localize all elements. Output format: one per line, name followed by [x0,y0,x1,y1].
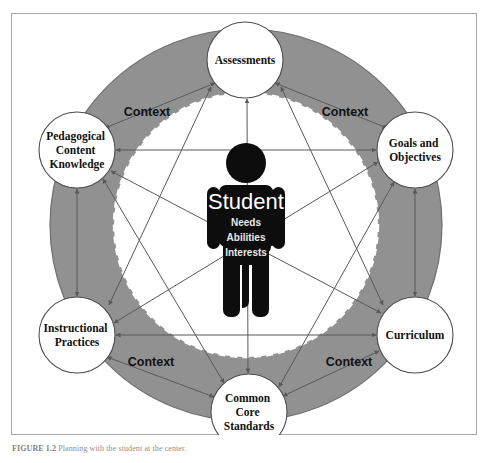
planning-model-diagram: Context Context Context Context Student … [11,13,477,435]
figure-caption-label: FIGURE 1.2 [12,444,56,453]
node-instructional-practices[interactable]: Instructional Practices [39,297,115,373]
figure-caption-text: Planning with the student at the center. [58,444,186,453]
student-head [226,143,266,183]
node-label-pck-line1: Pedagogical [46,130,105,143]
context-label-bottom-right: Context [326,355,373,369]
figure-caption: FIGURE 1.2 Planning with the student at … [12,444,472,453]
svg-text:Goals and Objectives: Goals and Objectives [389,137,442,164]
student-attribute-abilities: Abilities [227,232,266,243]
node-label-assessments: Assessments [215,54,276,66]
node-label-ccss-line3: Standards [224,420,275,432]
context-label-bottom-left: Context [128,355,175,369]
context-label-top-left: Context [124,105,171,119]
node-label-instructional-line1: Instructional [44,322,108,334]
node-assessments[interactable]: Assessments [207,22,283,98]
node-curriculum[interactable]: Curriculum [377,297,453,373]
node-label-instructional-line2: Practices [55,336,100,348]
node-label-goals-line1: Goals and [389,137,439,149]
node-goals-and-objectives[interactable]: Goals and Objectives [377,112,453,188]
node-label-goals-line2: Objectives [389,151,441,164]
node-label-ccss-line1: Common [225,392,271,404]
svg-text:Curriculum: Curriculum [386,329,445,341]
figure-container: Context Context Context Context Student … [0,0,491,463]
student-attribute-interests: Interests [225,247,267,258]
student-title: Student [208,189,284,214]
student-attribute-needs: Needs [231,217,261,228]
node-label-curriculum: Curriculum [386,329,445,341]
node-label-ccss-line2: Core [236,406,260,418]
svg-text:Assessments: Assessments [215,54,276,66]
context-label-top-right: Context [322,105,369,119]
node-label-pck-line3: Knowledge [50,158,105,171]
node-label-pck-line2: Content [56,144,96,156]
node-pedagogical-content-knowledge[interactable]: Pedagogical Content Knowledge [39,112,115,188]
